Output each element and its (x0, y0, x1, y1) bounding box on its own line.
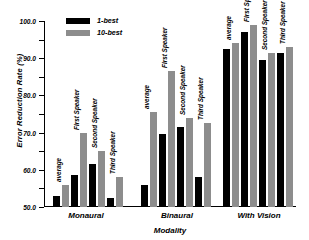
bar-cluster-label: Third Speaker (279, 1, 286, 44)
bar-group-monaural: averageFirst SpeakerSecond SpeakerThird … (50, 21, 122, 207)
plot-area: 0.010.020.030.040.050.060.070.080.090.01… (44, 21, 296, 207)
bar-1-best (159, 134, 166, 207)
bar-group-with-vision: averageFirst SpeakerSecond SpeakerThird … (220, 21, 298, 207)
bar-10-best (232, 43, 239, 207)
bar-1-best (277, 53, 284, 207)
bar-cluster: average (140, 21, 160, 207)
bar-1-best (223, 49, 230, 207)
bar-1-best (53, 196, 60, 207)
bar-10-best (168, 71, 175, 207)
x-group-label: Binaural (138, 211, 216, 220)
bar-cluster: First Speaker (158, 21, 178, 207)
bar-1-best (89, 164, 96, 207)
bar-cluster: average (222, 21, 242, 207)
y-tick-label: 50.0 (23, 204, 36, 211)
bar-cluster: Third Speaker (106, 21, 126, 207)
bar-10-best (250, 25, 257, 207)
bar-groups: averageFirst SpeakerSecond SpeakerThird … (44, 21, 296, 207)
bar-cluster: First Speaker (70, 21, 90, 207)
bar-10-best (186, 118, 193, 207)
bar-1-best (195, 177, 202, 207)
bar-1-best (107, 198, 114, 207)
y-tick-label: 100.0 (19, 18, 36, 25)
bar-1-best (241, 32, 248, 207)
bar-cluster: First Speaker (240, 21, 260, 207)
bar-cluster: Third Speaker (194, 21, 214, 207)
bar-cluster-label: First Speaker (161, 28, 168, 69)
error-reduction-bar-chart: Error Reduction Rate (%) 1-best 10-best … (0, 0, 309, 240)
bar-cluster-label: average (143, 85, 150, 109)
y-tick-label: 80.0 (23, 92, 36, 99)
bar-cluster-label: Second Speaker (179, 65, 186, 115)
bar-1-best (71, 175, 78, 207)
bar-10-best (286, 47, 293, 207)
bar-cluster: average (52, 21, 72, 207)
y-tick-label: 70.0 (23, 129, 36, 136)
bar-cluster-label: Second Speaker (261, 0, 268, 50)
y-tick: 0.0 (39, 207, 44, 208)
bar-1-best (141, 185, 148, 207)
bar-cluster-label: average (225, 16, 232, 40)
bar-10-best (98, 151, 105, 207)
bar-group-binaural: averageFirst SpeakerSecond SpeakerThird … (138, 21, 216, 207)
bar-cluster: Second Speaker (88, 21, 108, 207)
bar-10-best (150, 112, 157, 207)
bar-cluster-label: average (55, 158, 62, 182)
bar-cluster-label: First Speaker (243, 0, 250, 22)
bar-cluster: Second Speaker (176, 21, 196, 207)
bar-1-best (177, 127, 184, 207)
x-group-label: Monaural (50, 211, 122, 220)
bar-10-best (80, 133, 87, 207)
bar-cluster-label: Second Speaker (91, 98, 98, 148)
x-group-label: With Vision (220, 211, 298, 220)
bar-cluster-label: Third Speaker (197, 78, 204, 121)
bar-1-best (259, 60, 266, 207)
bar-cluster-label: Third Speaker (109, 132, 116, 175)
bar-10-best (116, 177, 123, 207)
y-tick-label: 90.0 (23, 55, 36, 62)
bar-cluster: Third Speaker (276, 21, 296, 207)
x-axis-title: Modality (44, 226, 296, 235)
bar-10-best (268, 53, 275, 207)
bar-10-best (62, 185, 69, 207)
y-axis-title: Error Reduction Rate (%) (15, 26, 24, 176)
bar-cluster: Second Speaker (258, 21, 278, 207)
bar-cluster-label: First Speaker (73, 89, 80, 130)
bar-10-best (204, 123, 211, 207)
y-tick-label: 60.0 (23, 166, 36, 173)
